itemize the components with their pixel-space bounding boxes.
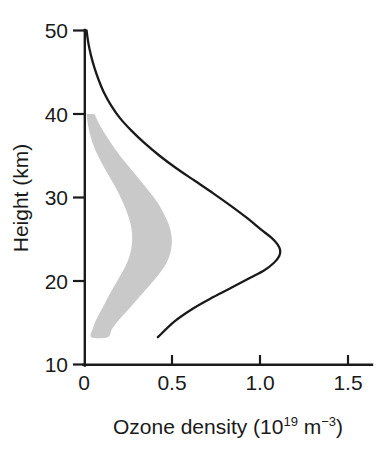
y-tick-label-10: 10 bbox=[45, 353, 68, 376]
x-tick-label-1-5: 1.5 bbox=[333, 371, 362, 394]
x-tick-label-1-0: 1.0 bbox=[245, 371, 274, 394]
y-tick-label-30: 30 bbox=[45, 186, 68, 209]
x-axis-title-exponent: 19 bbox=[283, 414, 297, 429]
x-axis-title-mid: m bbox=[298, 415, 321, 438]
x-axis-title-base: Ozone density (10 bbox=[113, 415, 283, 438]
y-axis-title: Height (km) bbox=[9, 144, 32, 253]
y-tick-label-20: 20 bbox=[45, 270, 68, 293]
x-tick-label-0: 0 bbox=[78, 371, 90, 394]
chart-svg: 50 40 30 20 10 0 0.5 1.0 1.5 Ozone densi… bbox=[0, 0, 392, 454]
x-axis-title: Ozone density (1019 m−3) bbox=[113, 414, 343, 438]
ozone-density-figure: 50 40 30 20 10 0 0.5 1.0 1.5 Ozone densi… bbox=[0, 0, 392, 454]
y-tick-label-40: 40 bbox=[45, 103, 68, 126]
x-tick-label-0-5: 0.5 bbox=[157, 371, 186, 394]
y-tick-label-50: 50 bbox=[45, 19, 68, 42]
x-axis-title-close: ) bbox=[336, 415, 343, 438]
x-axis-title-exponent2: −3 bbox=[321, 414, 336, 429]
